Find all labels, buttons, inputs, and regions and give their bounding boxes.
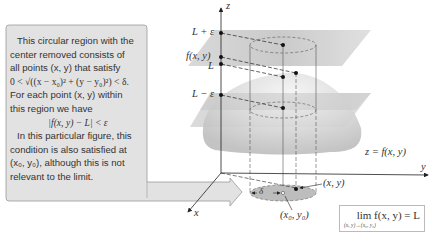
callout-inequality: 0 < √((x − x₀)² + (y − y₀)²) < δ. (10, 75, 146, 89)
upper-plane (188, 30, 371, 66)
callout-line-5: For each point (x, y) within (10, 88, 146, 102)
callout-line-3: all points (x, y) that satisfy (10, 61, 146, 75)
callout-line-9: condition is also satisfied at (10, 143, 146, 157)
callout-line-10: (x₀, y₀), although this is not (10, 156, 146, 170)
limit-expression: lim f(x, y) = L (357, 209, 420, 221)
surface-label: z = f(x, y) (365, 146, 406, 157)
callout-text: This circular region with the center rem… (10, 34, 146, 184)
point-label-center: (x₀, y₀) (280, 209, 309, 220)
callout-epsilon-condition: |f(x, y) − L| < ε (10, 116, 146, 130)
limit-definition-box: lim f(x, y) = L (x, y)→(x₀, y₀) (339, 205, 425, 232)
limit-subscript: (x, y)→(x₀, y₀) (344, 222, 376, 228)
callout-line-2: center removed consists of (10, 48, 146, 62)
y-axis-label: y (421, 161, 426, 172)
label-f-x-y: f(x, y) (186, 50, 210, 61)
z-axis-label: z (226, 0, 230, 11)
callout-line-11: relevant to the limit. (10, 170, 146, 184)
callout-line-6: this region we have (10, 102, 146, 116)
callout-line-1: This circular region with the (10, 34, 146, 48)
label-l-plus-epsilon: L + ε (192, 26, 214, 37)
surface (203, 73, 361, 155)
delta-label: δ (259, 186, 263, 196)
label-l: L (208, 60, 214, 71)
x-axis-label: x (194, 207, 199, 218)
point-label-x-y: (x, y) (323, 177, 345, 188)
label-l-minus-epsilon: L − ε (192, 88, 214, 99)
callout-line-8: In this particular figure, this (10, 129, 146, 143)
